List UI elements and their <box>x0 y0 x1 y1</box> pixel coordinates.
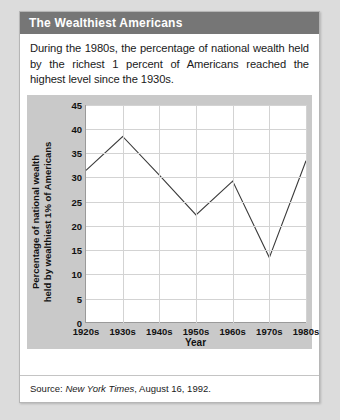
gridline-vertical <box>233 105 234 323</box>
source-note: Source: New York Times, August 16, 1992. <box>20 375 319 402</box>
gridline-vertical <box>196 105 197 323</box>
gridline-vertical <box>306 105 307 323</box>
y-axis-tick-label: 35 <box>71 148 82 159</box>
plot-area: 0510152025303540451920s1930s1940s1950s19… <box>85 105 306 323</box>
chart-panel: Percentage of national wealth held by we… <box>27 95 312 349</box>
y-axis-tick-label: 20 <box>71 220 82 231</box>
figure-title-bar: The Wealthiest Americans <box>20 12 319 34</box>
y-axis-label-line2: held by wealthiest 1% of Americans <box>42 122 54 322</box>
gridline-vertical <box>123 105 124 323</box>
y-axis-label: Percentage of national wealth held by we… <box>30 122 54 322</box>
x-axis-tick-label: 1950s <box>183 326 209 337</box>
x-axis-tick-label: 1940s <box>146 326 172 337</box>
x-axis-title: Year <box>85 337 306 348</box>
y-axis-tick-label: 40 <box>71 124 82 135</box>
page-background: The Wealthiest Americans During the 1980… <box>0 0 340 420</box>
gridline-vertical <box>159 105 160 323</box>
x-axis-tick-label: 1920s <box>73 326 99 337</box>
source-prefix: Source: <box>30 383 63 394</box>
y-axis-tick-label: 45 <box>71 99 82 110</box>
y-axis-tick-label: 25 <box>71 196 82 207</box>
y-axis-tick-label: 30 <box>71 172 82 183</box>
y-axis-label-line1: Percentage of national wealth <box>30 122 42 322</box>
figure-title: The Wealthiest Americans <box>29 16 183 30</box>
source-publication: New York Times <box>65 383 134 394</box>
x-axis-tick-label: 1960s <box>219 326 245 337</box>
gridline-vertical <box>269 105 270 323</box>
figure-caption: During the 1980s, the percentage of nati… <box>20 34 319 92</box>
y-axis-tick-label: 15 <box>71 245 82 256</box>
x-axis-tick-label: 1970s <box>256 326 282 337</box>
y-axis-tick-label: 5 <box>77 293 82 304</box>
x-axis-tick-label: 1980s <box>293 326 319 337</box>
x-axis-tick-label: 1930s <box>109 326 135 337</box>
figure-card: The Wealthiest Americans During the 1980… <box>19 11 320 403</box>
source-rest: , August 16, 1992. <box>134 383 211 394</box>
y-axis-tick-label: 10 <box>71 269 82 280</box>
